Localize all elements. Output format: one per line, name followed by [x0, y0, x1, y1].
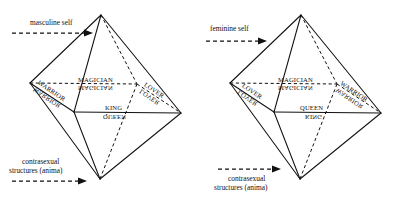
label-king-mirrored: KING [305, 114, 322, 121]
caption-feminine-self: feminine self [206, 24, 267, 45]
edge-front-to-right [74, 112, 181, 113]
caption-contrasexual-line2: structures (anima) [214, 183, 268, 192]
edge-back-to-bottom [300, 84, 337, 179]
caption-contrasexual-line2: structures (anima) [9, 166, 63, 175]
caption-contrasexual-line1: contrasexual [22, 157, 59, 166]
arrow-head-feminine-self [258, 38, 267, 45]
label-magician-upright: MAGICIAN [278, 76, 313, 83]
caption-masculine-self-text: masculine self [30, 18, 73, 27]
caption-feminine-self-text: feminine self [210, 24, 249, 33]
arrow-head-contrasexual-masculine [78, 178, 87, 185]
edge-right-to-bottom [100, 113, 181, 179]
edge-top-to-back [101, 15, 137, 84]
edge-back-to-bottom [100, 84, 137, 179]
label-group-warrior-feminine: WARRIOR WARRIOR [334, 80, 369, 111]
label-king-upright: KING [105, 104, 122, 111]
edge-top-to-back [301, 15, 337, 84]
edge-top-to-front [274, 15, 301, 112]
label-queen-upright: QUEEN [300, 104, 323, 111]
arrow-head-masculine-self [84, 30, 93, 37]
caption-contrasexual-feminine: contrasexual structures (anima) [214, 166, 281, 193]
edge-front-to-right [274, 112, 381, 113]
label-magician-upright: MAGICIAN [78, 76, 113, 83]
edge-top-to-right [101, 15, 181, 113]
label-magician-mirrored: MAGICIAN [278, 85, 313, 92]
caption-contrasexual-masculine: contrasexual structures (anima) [9, 157, 87, 185]
figure-root: masculine self contrasexual structures (… [0, 0, 401, 200]
caption-contrasexual-line1: contrasexual [228, 174, 265, 183]
edge-right-to-bottom [300, 113, 381, 179]
edge-front-to-bottom [74, 112, 100, 179]
edge-top-to-front [74, 15, 101, 112]
hidden-edges-masculine [30, 15, 181, 179]
diagram-feminine-self: feminine self contrasexual structures (a… [200, 0, 401, 200]
visible-edges-masculine [30, 15, 181, 179]
diagram-masculine-self: masculine self contrasexual structures (… [0, 0, 200, 200]
arrow-head-contrasexual-feminine [272, 166, 281, 173]
label-magician-mirrored: MAGICIAN [78, 85, 113, 92]
label-queen-mirrored: QUEEN [103, 114, 126, 121]
label-group-lover-feminine: LOVER LOVER [236, 82, 264, 108]
